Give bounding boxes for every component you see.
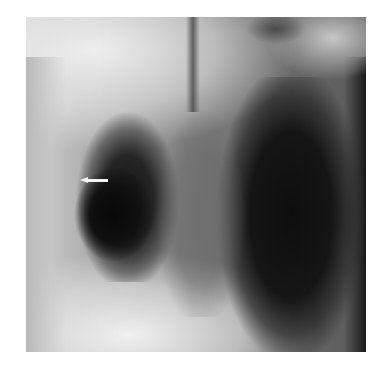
annotation-arrow-icon <box>80 177 108 183</box>
chest-xray-image <box>26 17 366 352</box>
trachea <box>186 17 200 112</box>
lung-apex <box>246 17 306 47</box>
lateral-ribs-left <box>26 57 66 352</box>
mediastinum <box>156 97 246 317</box>
arrow-shaft <box>87 179 108 182</box>
